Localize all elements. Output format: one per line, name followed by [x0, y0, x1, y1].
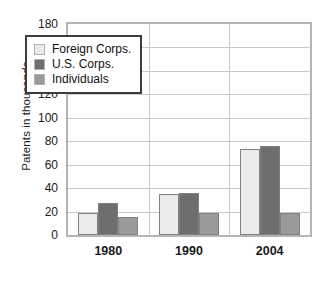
y-axis-tick-label: 0: [24, 229, 58, 241]
legend-swatch-icon: [34, 74, 45, 85]
chart-legend: Foreign Corps.U.S. Corps.Individuals: [25, 35, 142, 94]
bar: [240, 149, 260, 235]
x-axis-tick-labels: 198019902004: [66, 244, 312, 264]
bar-chart: Patents in thousands 1801601401201008060…: [0, 0, 332, 285]
x-axis-tick-label: 1990: [149, 244, 230, 258]
bar: [179, 193, 199, 235]
legend-label: Individuals: [52, 73, 109, 86]
legend-swatch-icon: [34, 44, 45, 55]
bar: [98, 203, 118, 235]
y-axis-tick-label: 60: [24, 159, 58, 171]
bar: [118, 217, 138, 235]
y-axis-tick-label: 20: [24, 206, 58, 218]
legend-item: U.S. Corps.: [34, 57, 131, 72]
bar-group: [149, 24, 230, 235]
x-axis-tick-label: 1980: [68, 244, 149, 258]
x-axis-tick-label: 2004: [229, 244, 310, 258]
legend-swatch-icon: [34, 59, 45, 70]
bar: [78, 213, 98, 235]
bar: [280, 213, 300, 235]
legend-label: U.S. Corps.: [52, 58, 114, 71]
bar: [159, 194, 179, 235]
bar: [260, 146, 280, 235]
bar-group: [229, 24, 310, 235]
y-axis-tick-label: 180: [24, 18, 58, 30]
legend-label: Foreign Corps.: [52, 43, 131, 56]
legend-item: Individuals: [34, 72, 131, 87]
y-axis-tick-label: 80: [24, 135, 58, 147]
bar: [199, 213, 219, 235]
y-axis-tick-label: 40: [24, 182, 58, 194]
legend-item: Foreign Corps.: [34, 42, 131, 57]
y-axis-tick-label: 100: [24, 112, 58, 124]
